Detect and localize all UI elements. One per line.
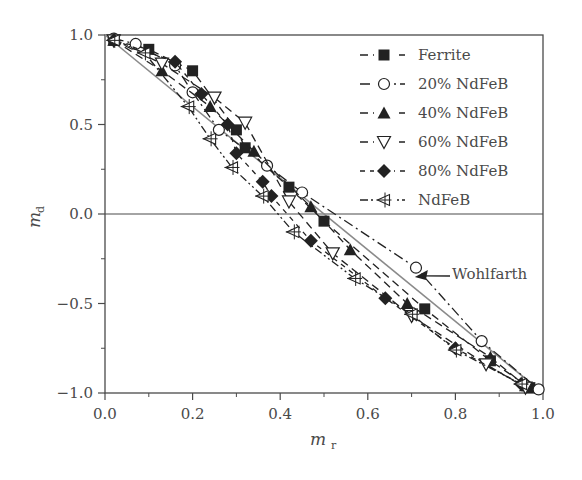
legend-label: NdFeB: [418, 191, 470, 209]
y-axis-title-subscript: d: [34, 206, 47, 213]
diamond-marker-icon: [256, 175, 270, 189]
circle-marker-icon: [410, 262, 421, 273]
legend-label: 80% NdFeB: [418, 162, 508, 180]
y-tick-label: 0.0: [69, 205, 93, 223]
x-tick-label: 0.2: [181, 405, 205, 423]
x-tick-label: 0.6: [356, 405, 380, 423]
legend-item: 20% NdFeB: [360, 75, 508, 93]
circle-marker-icon: [379, 79, 390, 90]
square-marker-icon: [379, 50, 390, 61]
square-marker-icon: [419, 303, 430, 314]
legend-label: 60% NdFeB: [418, 133, 508, 151]
y-tick-label: −1.0: [57, 384, 93, 402]
wohlfarth-annotation: Wohlfarth: [415, 265, 528, 283]
legend-item: 80% NdFeB: [360, 162, 508, 180]
legend-item: 60% NdFeB: [360, 133, 508, 151]
x-tick-label: 0.4: [268, 405, 292, 423]
triangle-left-cross-marker-icon: [225, 160, 240, 175]
triangle-up-marker-icon: [344, 243, 357, 255]
legend-label: 40% NdFeB: [418, 104, 508, 122]
legend-label: Ferrite: [418, 46, 471, 64]
y-axis-title: md: [24, 206, 47, 228]
diamond-marker-icon: [304, 234, 318, 248]
chart-svg: 0.00.20.40.60.81.01.00.50.0−0.5−1.0 Ferr…: [0, 0, 582, 480]
legend: Ferrite20% NdFeB40% NdFeB60% NdFeB80% Nd…: [360, 46, 508, 209]
x-axis-title: m: [310, 429, 326, 449]
triangle-up-marker-icon: [401, 297, 414, 309]
y-tick-label: 1.0: [69, 26, 93, 44]
triangle-left-cross-marker-icon: [181, 99, 196, 114]
x-tick-label: 0.0: [93, 405, 117, 423]
x-tick-label: 1.0: [531, 405, 555, 423]
triangle-left-cross-marker-icon: [203, 131, 218, 146]
y-tick-label: −0.5: [57, 295, 93, 313]
x-tick-label: 0.8: [443, 405, 467, 423]
y-axis-title-main: m: [24, 212, 44, 228]
legend-label: 20% NdFeB: [418, 75, 508, 93]
legend-item: NdFeB: [360, 191, 470, 209]
square-marker-icon: [283, 182, 294, 193]
legend-item: 40% NdFeB: [360, 104, 508, 122]
square-marker-icon: [187, 65, 198, 76]
x-axis-title-subscript: r: [331, 439, 337, 452]
triangle-left-cross-marker-icon: [347, 271, 362, 286]
circle-marker-icon: [476, 336, 487, 347]
y-tick-label: 0.5: [69, 116, 93, 134]
legend-item: Ferrite: [360, 46, 471, 64]
circle-marker-icon: [297, 187, 308, 198]
wohlfarth-label: Wohlfarth: [452, 265, 528, 283]
